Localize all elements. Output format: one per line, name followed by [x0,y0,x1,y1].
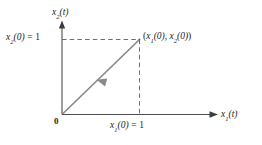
y-axis [59,21,65,115]
trajectory-direction-arrowhead [97,78,108,86]
initial-condition-point [139,39,141,41]
y-axis-arrowhead [59,21,65,29]
x-axis-arrowhead [210,111,219,117]
origin-label: 0 [54,117,59,126]
phase-plane-figure: x2(t) x1(t) x2(0) = 1 x1(0) = 1 (x1(0), … [0,0,262,145]
initial-point-label: (x1(0), x2(0)) [143,32,191,42]
x-intercept-label: x1(0) = 1 [110,121,144,131]
y-intercept-label: x2(0) = 1 [6,33,40,43]
trajectory-line [63,40,140,115]
y-axis-label: x2(t) [52,8,68,18]
x-axis-label: x1(t) [221,110,237,120]
